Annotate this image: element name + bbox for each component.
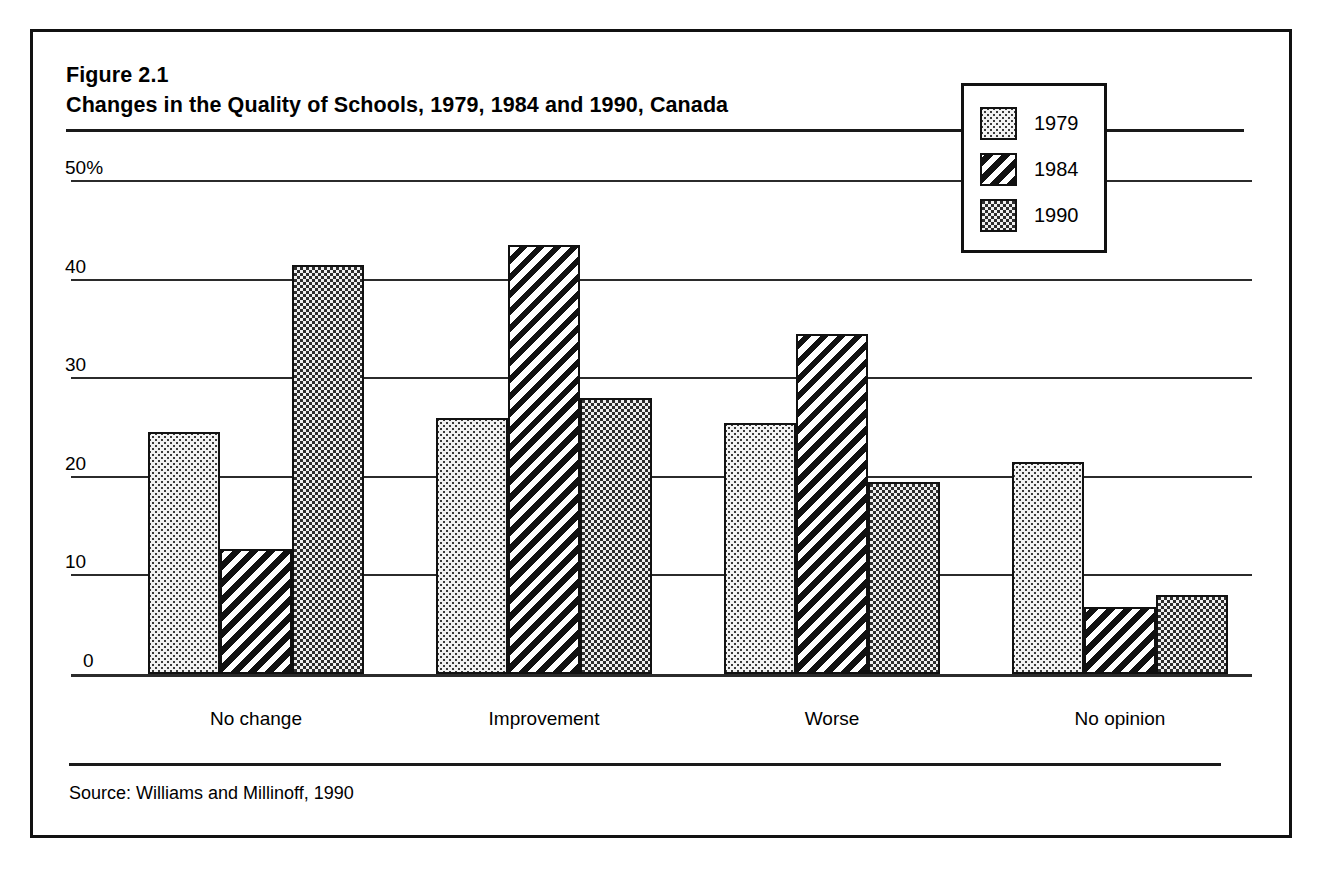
- legend-swatch-1990-icon: [980, 199, 1017, 232]
- bar-1990-no-opinion: [1156, 595, 1228, 674]
- legend-item-1984[interactable]: 1984: [964, 146, 1104, 192]
- bar-1984-no-change: [220, 549, 292, 674]
- bar-1984-improvement: [508, 245, 580, 674]
- bar-1979-no-opinion: [1012, 462, 1084, 674]
- bar-1979-no-change: [148, 432, 220, 674]
- x-category-label-no-opinion: No opinion: [972, 709, 1268, 729]
- bar-1984-worse: [796, 334, 868, 674]
- source-divider: [69, 763, 1221, 766]
- legend-label-1990: 1990: [1034, 204, 1079, 227]
- x-category-label-no-change: No change: [108, 709, 404, 729]
- x-category-label-improvement: Improvement: [396, 709, 692, 729]
- bar-1984-no-opinion: [1084, 607, 1156, 674]
- legend-label-1979: 1979: [1034, 112, 1079, 135]
- figure-frame: Figure 2.1 Changes in the Quality of Sch…: [30, 29, 1292, 838]
- bar-1990-improvement: [580, 398, 652, 674]
- bar-1979-improvement: [436, 418, 508, 674]
- legend-swatch-1984-icon: [980, 153, 1017, 186]
- x-axis-baseline: [71, 674, 1252, 677]
- legend-label-1984: 1984: [1034, 158, 1079, 181]
- legend-box: 1979 1984 1990: [961, 83, 1107, 253]
- bar-1990-worse: [868, 482, 940, 674]
- bar-1979-worse: [724, 423, 796, 674]
- legend-item-1979[interactable]: 1979: [964, 100, 1104, 146]
- legend-swatch-1979-icon: [980, 107, 1017, 140]
- bar-1990-no-change: [292, 265, 364, 674]
- source-note: Source: Williams and Millinoff, 1990: [69, 782, 354, 804]
- x-category-label-worse: Worse: [684, 709, 980, 729]
- legend-item-1990[interactable]: 1990: [964, 192, 1104, 238]
